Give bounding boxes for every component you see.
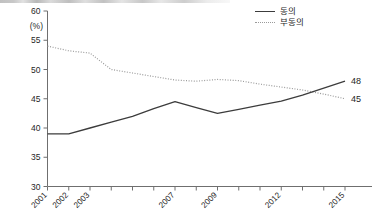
x-tick-label: 2007 — [157, 190, 177, 210]
series-line-disagree — [48, 46, 346, 99]
y-tick-label: 50 — [31, 65, 41, 75]
end-value-labels: 48 45 — [351, 76, 361, 104]
chart-legend: 동의 부동의 — [255, 6, 304, 28]
legend-label-disagree: 부동의 — [280, 17, 304, 28]
end-label-agree: 48 — [351, 76, 361, 86]
y-tick-label: 55 — [31, 35, 41, 45]
y-tick-label: 40 — [31, 123, 41, 133]
x-tick-label: 2003 — [72, 190, 92, 210]
line-chart: 60555045403530 (%) 200120022003200720092… — [0, 0, 376, 221]
x-tick-label: 2002 — [51, 190, 71, 210]
x-tick-label: 2012 — [263, 190, 283, 210]
series-group — [48, 46, 346, 134]
y-tick-label: 30 — [31, 182, 41, 192]
legend-item-disagree: 부동의 — [255, 17, 304, 28]
chart-container: 60555045403530 (%) 200120022003200720092… — [0, 0, 376, 221]
legend-label-agree: 동의 — [280, 6, 296, 17]
end-label-disagree: 45 — [351, 94, 361, 104]
legend-item-agree: 동의 — [255, 6, 304, 17]
y-tick-label: 35 — [31, 152, 41, 162]
y-tick-label: 45 — [31, 94, 41, 104]
x-tick-label: 2009 — [200, 190, 220, 210]
y-axis-unit: (%) — [30, 21, 43, 31]
y-tick-label: 60 — [31, 6, 41, 16]
legend-swatch-solid-icon — [255, 11, 275, 12]
legend-swatch-dotted-icon — [255, 22, 275, 23]
x-tick-label: 2001 — [30, 190, 50, 210]
x-tick-label: 2015 — [327, 190, 347, 210]
y-axis: 60555045403530 (%) — [30, 6, 48, 192]
x-axis: 2001200220032007200920122015 — [30, 187, 372, 210]
